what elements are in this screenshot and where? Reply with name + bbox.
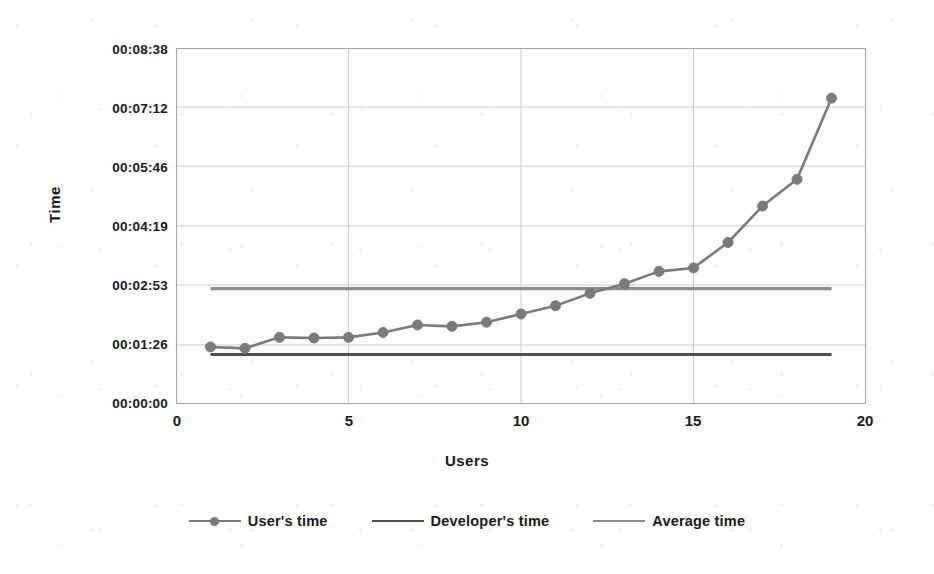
y-tick-label: 00:01:26 [72, 337, 168, 352]
chart-legend: User's time Developer's time Average tim… [0, 513, 934, 529]
x-tick-label: 10 [499, 412, 543, 429]
legend-label: User's time [248, 513, 328, 529]
y-tick-label: 00:05:46 [72, 160, 168, 175]
y-axis-title: Time [46, 175, 63, 235]
y-tick-label: 00:02:53 [72, 278, 168, 293]
plot-svg [176, 48, 866, 404]
legend-marker-line-icon [189, 515, 241, 527]
legend-label: Developer's time [431, 513, 550, 529]
x-axis-title: Users [0, 452, 934, 469]
x-tick-label: 20 [843, 412, 887, 429]
x-tick-label: 15 [671, 412, 715, 429]
y-tick-label: 00:07:12 [72, 101, 168, 116]
chart-figure: Time 00:00:00 00:01:26 00:02:53 00:04:19… [0, 0, 934, 574]
gridlines [176, 48, 866, 404]
legend-item-developers-time: Developer's time [372, 513, 550, 529]
x-tick-label: 0 [155, 412, 199, 429]
legend-line-icon [372, 515, 424, 527]
y-axis-tick-labels: 00:00:00 00:01:26 00:02:53 00:04:19 00:0… [68, 0, 168, 574]
legend-label: Average time [652, 513, 745, 529]
x-tick-label: 5 [327, 412, 371, 429]
legend-line-icon [593, 515, 645, 527]
y-tick-label: 00:08:38 [72, 42, 168, 57]
plot-area [176, 48, 866, 404]
legend-item-average-time: Average time [593, 513, 745, 529]
y-tick-label: 00:00:00 [72, 396, 168, 411]
y-tick-label: 00:04:19 [72, 219, 168, 234]
legend-item-users-time: User's time [189, 513, 328, 529]
